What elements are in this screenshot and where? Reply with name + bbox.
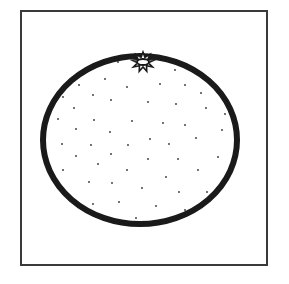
peel-dot	[73, 107, 75, 109]
orange-outline	[43, 56, 237, 224]
peel-dot	[149, 138, 151, 140]
peel-dot	[178, 191, 180, 193]
peel-dot	[88, 181, 90, 183]
peel-dot	[104, 78, 106, 80]
peel-dot	[111, 182, 113, 184]
peel-dot	[131, 120, 133, 122]
peel-dot	[175, 103, 177, 105]
stem-calyx-icon	[132, 52, 154, 71]
peel-dot	[195, 137, 197, 139]
peel-dot	[147, 158, 149, 160]
peel-dot	[62, 96, 64, 98]
peel-dot	[206, 191, 208, 193]
peel-dot	[224, 113, 226, 115]
peel-dot	[155, 205, 157, 207]
peel-dot	[127, 144, 129, 146]
peel-dot	[109, 131, 111, 133]
peel-dot	[221, 129, 223, 131]
peel-dot	[110, 153, 112, 155]
peel-dot	[168, 143, 170, 145]
peel-dots	[57, 61, 226, 219]
peel-dot	[62, 169, 64, 171]
orange-illustration	[0, 0, 289, 284]
peel-dot	[118, 201, 120, 203]
peel-dot	[205, 107, 207, 109]
peel-dot	[200, 92, 202, 94]
peel-dot	[165, 176, 167, 178]
peel-dot	[147, 101, 149, 103]
peel-dot	[61, 143, 63, 145]
peel-dot	[93, 119, 95, 121]
peel-dot	[159, 83, 161, 85]
peel-dot	[57, 118, 59, 120]
peel-dot	[135, 217, 137, 219]
peel-dot	[184, 124, 186, 126]
peel-dot	[92, 94, 94, 96]
peel-dot	[110, 99, 112, 101]
peel-dot	[184, 209, 186, 211]
peel-dot	[97, 163, 99, 165]
peel-dot	[75, 155, 77, 157]
peel-dot	[90, 144, 92, 146]
peel-dot	[162, 122, 164, 124]
peel-dot	[75, 128, 77, 130]
peel-dot	[184, 84, 186, 86]
peel-dot	[197, 169, 199, 171]
peel-dot	[174, 69, 176, 71]
peel-dot	[126, 169, 128, 171]
peel-dot	[92, 203, 94, 205]
peel-dot	[141, 187, 143, 189]
peel-dot	[126, 86, 128, 88]
peel-dot	[217, 156, 219, 158]
peel-dot	[78, 84, 80, 86]
peel-dot	[177, 158, 179, 160]
